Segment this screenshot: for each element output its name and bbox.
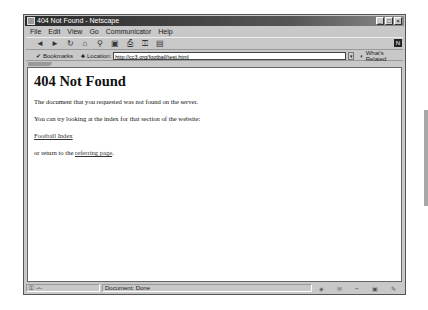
menu-go[interactable]: Go [89,27,98,36]
status-bar: ⚿ -▫- Document: Done ◈ ✉ ⌐ ▣ ✎ [26,283,403,293]
background-gray-bar [424,110,428,206]
back-icon[interactable]: ◄ [36,39,44,48]
menu-communicator[interactable]: Communicator [106,27,152,36]
menu-bar: File Edit View Go Communicator Help [26,27,403,36]
page-content: 404 Not Found The document that you requ… [27,67,402,282]
referring-page-link[interactable]: referring page [75,149,112,156]
whats-related-icon: ◐ [360,53,364,59]
bookmarks-label: Bookmarks [43,53,73,59]
location-label: Location: [87,53,111,59]
menu-help[interactable]: Help [158,27,172,36]
component-bar: ◈ ✉ ⌐ ▣ ✎ [312,284,403,292]
bookmark-icon: ✔ [36,52,41,59]
netscape-guide-icon[interactable]: ▣ [111,39,119,48]
navigation-toolbar: ◄ ► ↻ ⌂ ⚲ ▣ ⎙ ⚿ ▤ [26,37,403,50]
close-button[interactable]: × [394,17,402,25]
minimize-button[interactable]: _ [376,17,384,25]
page-heading: 404 Not Found [34,73,395,90]
return-line: or return to the referring page. [34,149,395,156]
menu-edit[interactable]: Edit [48,27,60,36]
search-icon[interactable]: ⚲ [96,39,104,48]
reload-icon[interactable]: ↻ [66,39,74,48]
menu-file[interactable]: File [30,27,41,36]
security-lock-icon: ⚿ [29,285,34,292]
mail-icon[interactable]: ✉ [337,285,342,292]
maximize-button[interactable]: □ [385,17,393,25]
whats-related-label: What's Related [366,50,403,62]
discussion-icon[interactable]: ⌐ [355,285,359,291]
print-icon[interactable]: ⎙ [126,39,134,48]
location-toolbar: ✔ Bookmarks ♣ Location: http://cc3.org/f… [26,51,403,61]
football-index-link[interactable]: Football Index [34,132,73,139]
title-bar[interactable]: 404 Not Found - Netscape _ □ × [25,16,404,26]
security-status[interactable]: ⚿ -▫- [26,284,100,292]
status-message: Document: Done [102,284,312,292]
menu-view[interactable]: View [67,27,82,36]
connection-icon: -▫- [36,285,42,291]
navigator-icon[interactable]: ◈ [319,285,324,292]
window-title: 404 Not Found - Netscape [37,17,119,24]
edit-icon[interactable]: ✎ [391,285,396,292]
security-icon[interactable]: ⚿ [141,39,149,48]
netscape-app-icon [27,17,35,25]
not-found-message: The document that you requested was not … [34,98,395,105]
stop-icon[interactable]: ▤ [156,39,164,48]
composer-icon[interactable]: ▣ [372,285,378,292]
bookmarks-button[interactable]: ✔ Bookmarks [36,52,73,59]
location-label-group: ♣ Location: [81,53,111,59]
url-dropdown-button[interactable]: ▾ [348,52,354,60]
browser-window: 404 Not Found - Netscape _ □ × File Edit… [23,14,406,295]
whats-related-button[interactable]: ◐ What's Related [360,50,403,62]
url-input[interactable]: http://cc3.org/football/test.html [113,52,346,60]
netscape-logo-icon: N [394,39,402,47]
toolbar-collapse-tab[interactable] [26,62,403,66]
forward-icon[interactable]: ► [51,39,59,48]
location-icon: ♣ [81,53,85,59]
home-icon[interactable]: ⌂ [81,39,89,48]
index-hint: You can try looking at the index for tha… [34,115,395,122]
